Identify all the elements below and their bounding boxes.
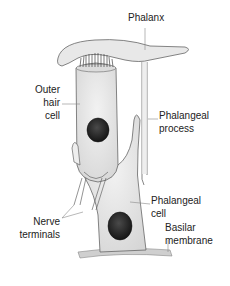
leader-nerve-terminals [62,205,83,218]
label-phalangeal-cell-line2: cell [151,208,166,220]
label-phalanx: Phalanx [128,12,164,24]
label-nerve-terminals-line1: Nerve [14,216,60,228]
label-phalangeal-cell-line1: Phalangeal [151,195,201,207]
label-basilar-membrane-line2: membrane [165,235,213,247]
phalangeal-process [142,62,147,185]
label-phalangeal-process-line1: Phalangeal [159,110,209,122]
diagram-canvas: Phalanx Outer hair cell Phalangeal proce… [0,0,230,286]
label-basilar-membrane-line1: Basilar [165,222,196,234]
phalangeal-cell-nucleus [108,212,132,240]
outer-hair-cell [76,53,118,182]
label-nerve-terminals-line2: terminals [14,229,60,241]
phalanx [58,40,189,66]
label-outer-hair-cell-line1: Outer [26,84,60,96]
label-outer-hair-cell-line2: hair [26,97,60,109]
label-outer-hair-cell-line3: cell [26,110,60,122]
label-phalangeal-process-line2: process [159,123,194,135]
hair-cell-nucleus [87,118,109,142]
